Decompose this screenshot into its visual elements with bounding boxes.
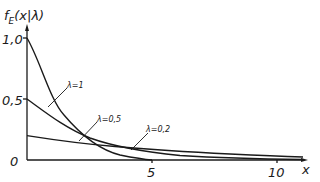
y-tick-label-0: 0 xyxy=(10,154,18,169)
y-axis-title: fE(x|λ) xyxy=(4,8,44,26)
curve-label-lambda-02: λ=0,2 xyxy=(145,125,170,134)
y-tick-label-1: 1,0 xyxy=(2,32,23,47)
chart: fE(x|λ) 1,0 0,5 0 5 10 x λ=1 λ=0,5 λ=0,2 xyxy=(0,0,320,182)
y-tick-label-05: 0,5 xyxy=(2,93,23,108)
curves xyxy=(27,38,303,160)
x-tick-label-5: 5 xyxy=(147,165,155,180)
x-axis-title: x xyxy=(301,162,310,177)
curve-lambda-1 xyxy=(27,38,152,160)
curve-label-lambda-05: λ=0,5 xyxy=(96,115,121,124)
leader-lambda-02 xyxy=(131,133,148,150)
leader-lambda-1 xyxy=(48,88,67,107)
y-axis-arrow-icon xyxy=(25,24,29,31)
x-tick-label-10: 10 xyxy=(268,165,285,180)
curve-label-lambda-1: λ=1 xyxy=(66,81,84,90)
axes xyxy=(23,24,308,163)
